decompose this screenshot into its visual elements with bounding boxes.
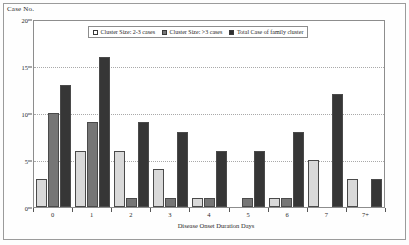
y-tick-mark: [28, 208, 32, 209]
bar: [87, 122, 98, 207]
bar: [177, 132, 188, 207]
chart-figure: Case No. 05101520 012345677+ Disease Ons…: [0, 0, 409, 245]
bar: [114, 151, 125, 207]
legend-label: Total Case of family cluster: [237, 29, 304, 35]
bar: [269, 198, 280, 207]
open-square-swatch: [93, 30, 98, 35]
bar: [332, 94, 343, 207]
y-axis-tick-labels: 05101520: [0, 20, 31, 208]
bar: [153, 169, 164, 207]
plot-area: [33, 20, 385, 208]
y-tick-mark: [28, 161, 32, 162]
bar-groups: [34, 21, 384, 207]
x-axis-title: Disease Onset Duration Days: [36, 222, 396, 229]
bar: [293, 132, 304, 207]
bar: [165, 198, 176, 207]
bar-group: [73, 21, 112, 207]
bar: [371, 179, 382, 207]
bar: [192, 198, 203, 207]
legend-item: Total Case of family cluster: [229, 29, 303, 35]
bar-group: [345, 21, 384, 207]
bar: [254, 151, 265, 207]
bar-group: [306, 21, 345, 207]
bar-group: [34, 21, 73, 207]
bar: [281, 198, 292, 207]
bar: [75, 151, 86, 207]
bar-group: [112, 21, 151, 207]
y-tick-mark: [28, 67, 32, 68]
chart-legend: Cluster Size: 2-3 casesCluster Size: >3 …: [88, 26, 308, 38]
y-axis-title: Case No.: [7, 5, 34, 13]
legend-item: Cluster Size: >3 cases: [162, 29, 222, 35]
bar: [242, 198, 253, 207]
legend-item: Cluster Size: 2-3 cases: [93, 29, 155, 35]
bar: [138, 122, 149, 207]
bar: [126, 198, 137, 207]
y-tick-mark: [28, 20, 32, 21]
bar-group: [228, 21, 267, 207]
bar: [60, 85, 71, 207]
bar-group: [190, 21, 229, 207]
x-tick-mark: [385, 208, 386, 212]
legend-label: Cluster Size: 2-3 cases: [101, 29, 156, 35]
bar: [216, 151, 227, 207]
bar: [204, 198, 215, 207]
bar-group: [151, 21, 190, 207]
dark-square-swatch: [229, 30, 234, 35]
y-tick-mark: [28, 114, 32, 115]
bar: [347, 179, 358, 207]
gray-square-swatch: [162, 30, 167, 35]
legend-label: Cluster Size: >3 cases: [170, 29, 223, 35]
bar: [99, 57, 110, 207]
bar: [36, 179, 47, 207]
bar: [308, 160, 319, 207]
bar-group: [267, 21, 306, 207]
bar: [48, 113, 59, 207]
